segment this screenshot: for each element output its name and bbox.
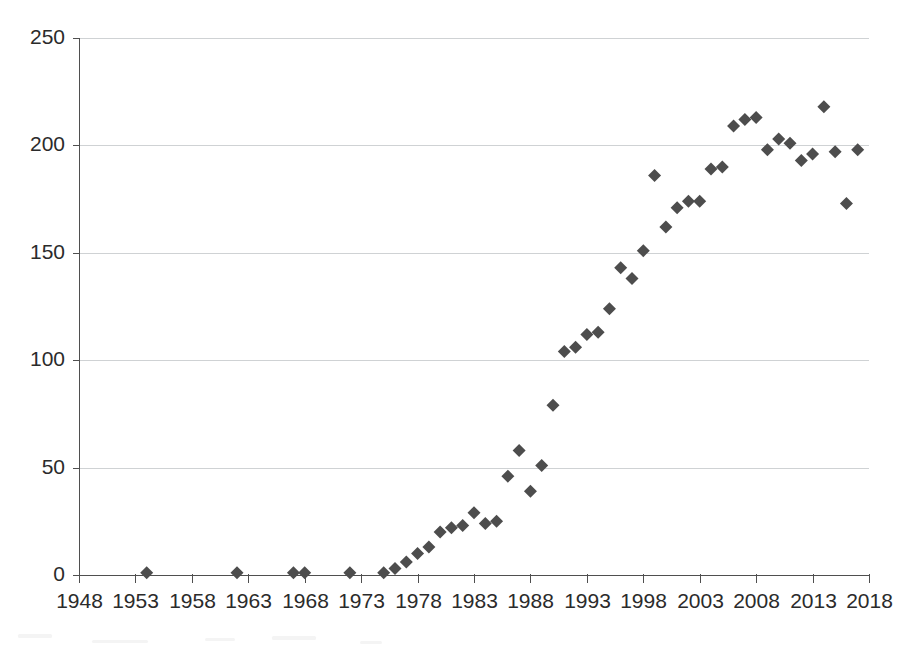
data-point — [614, 261, 627, 274]
scan-artifact — [18, 634, 52, 638]
x-tick-label-1983: 1983 — [451, 589, 498, 612]
data-point — [298, 566, 311, 579]
data-point — [603, 302, 616, 315]
data-point — [750, 111, 763, 124]
y-tick-label-50: 50 — [42, 455, 65, 478]
scatter-chart: 050100150200250 194819531958196319681973… — [0, 0, 917, 648]
data-point — [400, 556, 413, 569]
data-point — [422, 541, 435, 554]
scan-artifact — [92, 640, 148, 643]
data-point — [795, 154, 808, 167]
data-point — [445, 521, 458, 534]
y-tick-label-200: 200 — [30, 132, 65, 155]
data-point — [659, 221, 672, 234]
x-axis-tick-labels: 1948195319581963196819731978198319881993… — [56, 589, 893, 612]
data-point — [784, 137, 797, 150]
x-tick-label-1953: 1953 — [112, 589, 159, 612]
x-tick-label-1973: 1973 — [338, 589, 385, 612]
data-point — [693, 195, 706, 208]
data-point — [569, 341, 582, 354]
data-point — [580, 328, 593, 341]
data-point — [817, 100, 830, 113]
data-point — [535, 459, 548, 472]
data-point — [648, 169, 661, 182]
x-tick-label-1998: 1998 — [620, 589, 667, 612]
scan-artifact — [272, 636, 316, 640]
x-tick-label-1968: 1968 — [282, 589, 329, 612]
data-point — [513, 444, 526, 457]
scan-artifact — [360, 641, 382, 644]
data-point — [671, 201, 684, 214]
data-point — [840, 197, 853, 210]
data-point — [377, 566, 390, 579]
y-tick-label-250: 250 — [30, 25, 65, 48]
x-tick-label-1978: 1978 — [395, 589, 442, 612]
x-tick-label-2003: 2003 — [677, 589, 724, 612]
data-point — [829, 145, 842, 158]
data-point — [637, 244, 650, 257]
y-tick-label-150: 150 — [30, 240, 65, 263]
y-tick-label-100: 100 — [30, 347, 65, 370]
data-point — [705, 163, 718, 176]
data-point — [501, 470, 514, 483]
data-point — [806, 147, 819, 160]
x-tick-label-1948: 1948 — [56, 589, 103, 612]
data-markers-group — [140, 100, 864, 579]
data-point — [682, 195, 695, 208]
data-point — [738, 113, 751, 126]
chart-canvas: 050100150200250 194819531958196319681973… — [0, 0, 917, 648]
x-tick-label-2013: 2013 — [790, 589, 837, 612]
data-point — [343, 566, 356, 579]
data-point — [434, 526, 447, 539]
scan-artifact — [205, 638, 235, 641]
data-point — [547, 399, 560, 412]
data-point — [727, 120, 740, 133]
data-point — [479, 517, 492, 530]
data-point — [772, 132, 785, 145]
x-tick-label-1988: 1988 — [507, 589, 554, 612]
scan-artifacts — [18, 634, 382, 644]
y-axis-tick-labels: 050100150200250 — [30, 25, 65, 585]
x-tick-label-1958: 1958 — [169, 589, 216, 612]
data-point — [411, 547, 424, 560]
data-point — [524, 485, 537, 498]
gridlines-group — [79, 39, 869, 469]
data-point — [140, 566, 153, 579]
x-tick-label-2008: 2008 — [733, 589, 780, 612]
data-point — [389, 562, 402, 575]
data-point — [287, 566, 300, 579]
x-tick-label-1993: 1993 — [564, 589, 611, 612]
data-point — [558, 345, 571, 358]
data-point — [468, 506, 481, 519]
x-tick-label-1963: 1963 — [225, 589, 272, 612]
data-point — [231, 566, 244, 579]
x-tick-label-2018: 2018 — [846, 589, 893, 612]
data-point — [456, 519, 469, 532]
data-point — [490, 515, 503, 528]
data-point — [592, 326, 605, 339]
data-point — [716, 160, 729, 173]
data-point — [626, 272, 639, 285]
y-tick-label-0: 0 — [53, 562, 65, 585]
